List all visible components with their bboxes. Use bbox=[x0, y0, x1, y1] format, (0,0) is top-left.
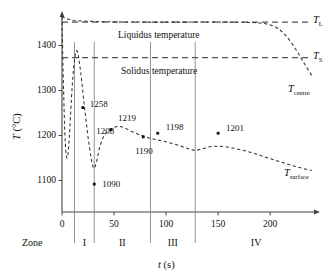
surface-temperature-series-label: Tsurface bbox=[284, 168, 309, 181]
data-value-label: 1198 bbox=[166, 123, 184, 132]
data-value-label: 1258 bbox=[90, 100, 108, 109]
solidus-line-label: TS bbox=[313, 51, 322, 64]
x-tick-label: 0 bbox=[47, 220, 77, 230]
x-tick-label: 200 bbox=[255, 220, 285, 230]
solidus-temperature-label: Solidus temperature bbox=[121, 67, 197, 77]
x-axis-title: t (s) bbox=[158, 260, 175, 271]
data-value-label: 1219 bbox=[118, 114, 136, 123]
y-axis-title: T (°C) bbox=[12, 113, 23, 140]
x-tick-label: 50 bbox=[99, 220, 129, 230]
x-tick-label: 100 bbox=[151, 220, 181, 230]
zone-row-title: Zone bbox=[22, 238, 43, 248]
x-tick-label: 150 bbox=[203, 220, 233, 230]
liquidus-temperature-label: Liquidus temperature bbox=[118, 31, 200, 41]
data-value-label: 1201 bbox=[226, 124, 244, 133]
data-value-label: 1190 bbox=[135, 147, 153, 156]
temperature-time-chart: 1100120013001400 050100150200 1258120810… bbox=[0, 0, 334, 279]
axis-lines bbox=[60, 11, 320, 214]
centre-temperature-series-label: Tcentre bbox=[288, 84, 310, 97]
zone-label-ii: II bbox=[107, 238, 137, 248]
data-value-label: 1208 bbox=[96, 127, 114, 136]
data-value-label: 1090 bbox=[102, 180, 120, 189]
y-tick-label: 1300 bbox=[28, 86, 56, 96]
zone-label-iv: IV bbox=[241, 238, 271, 248]
zone-label-i: I bbox=[69, 238, 99, 248]
liquidus-line-label: TL bbox=[313, 15, 323, 28]
y-tick-label: 1200 bbox=[28, 131, 56, 141]
y-tick-label: 1100 bbox=[28, 176, 56, 186]
zone-label-iii: III bbox=[158, 238, 188, 248]
y-tick-label: 1400 bbox=[28, 41, 56, 51]
